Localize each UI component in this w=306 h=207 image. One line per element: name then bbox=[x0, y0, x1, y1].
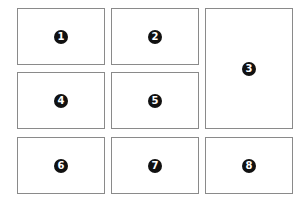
panel-7: 7 bbox=[111, 137, 199, 194]
panel-8: 8 bbox=[205, 137, 293, 194]
number-badge-4: 4 bbox=[54, 94, 68, 108]
number-badge-2: 2 bbox=[148, 30, 162, 44]
panel-3: 3 bbox=[205, 8, 293, 129]
number-badge-3: 3 bbox=[242, 62, 256, 76]
panel-4: 4 bbox=[17, 72, 105, 129]
number-badge-5: 5 bbox=[148, 94, 162, 108]
number-badge-6: 6 bbox=[54, 159, 68, 173]
panel-5: 5 bbox=[111, 72, 199, 129]
number-badge-8: 8 bbox=[242, 159, 256, 173]
number-badge-1: 1 bbox=[54, 30, 68, 44]
panel-6: 6 bbox=[17, 137, 105, 194]
number-badge-7: 7 bbox=[148, 159, 162, 173]
panel-2: 2 bbox=[111, 8, 199, 65]
panel-1: 1 bbox=[17, 8, 105, 65]
